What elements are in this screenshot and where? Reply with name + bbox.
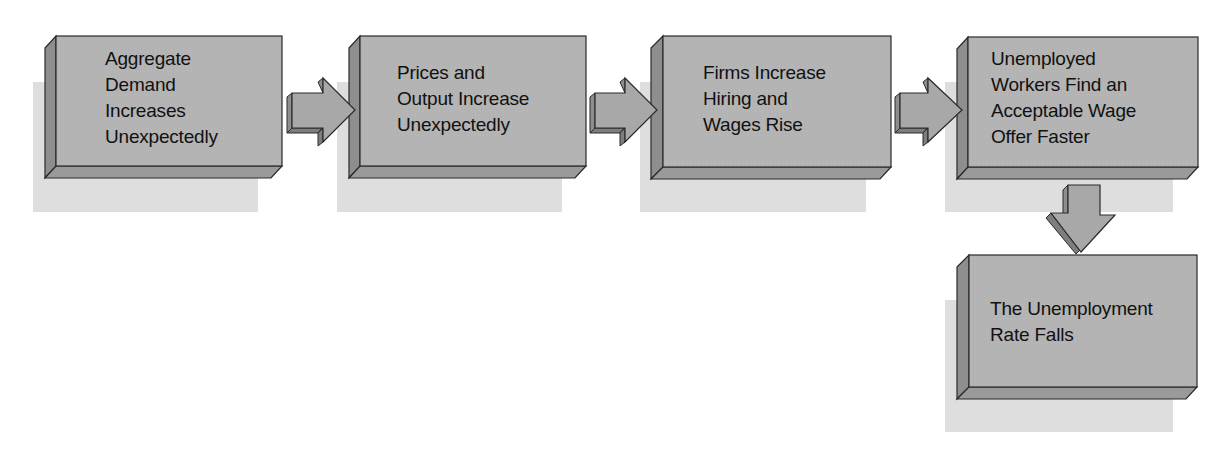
node-1-line-1: Aggregate [105, 46, 218, 72]
node-4-line-4: Offer Faster [991, 124, 1136, 150]
node-4-line-1: Unemployed [991, 46, 1136, 72]
node-2-line-1: Prices and [397, 60, 529, 86]
node-label-1: Aggregate Demand Increases Unexpectedly [105, 46, 218, 150]
node-1-line-2: Demand [105, 72, 218, 98]
node-5-line-1: The Unemployment [990, 296, 1153, 322]
node-label-2: Prices and Output Increase Unexpectedly [397, 60, 529, 138]
node-1-line-4: Unexpectedly [105, 124, 218, 150]
node-2-line-3: Unexpectedly [397, 112, 529, 138]
node-5-line-2: Rate Falls [990, 322, 1153, 348]
node-3-line-2: Hiring and [703, 86, 826, 112]
node-label-3: Firms Increase Hiring and Wages Rise [703, 60, 826, 138]
node-label-5: The Unemployment Rate Falls [990, 296, 1153, 348]
node-4-line-2: Workers Find an [991, 72, 1136, 98]
node-3-line-3: Wages Rise [703, 112, 826, 138]
node-1-line-3: Increases [105, 98, 218, 124]
node-2-line-2: Output Increase [397, 86, 529, 112]
node-3-line-1: Firms Increase [703, 60, 826, 86]
node-label-4: Unemployed Workers Find an Acceptable Wa… [991, 46, 1136, 150]
node-4-line-3: Acceptable Wage [991, 98, 1136, 124]
